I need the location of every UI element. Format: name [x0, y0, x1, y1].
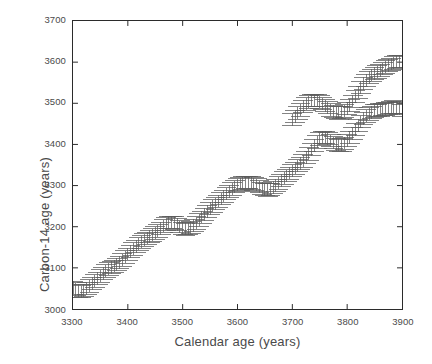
x-tick-3700: 3700 [273, 316, 313, 327]
x-tick-3500: 3500 [162, 316, 202, 327]
x-tick-3400: 3400 [107, 316, 147, 327]
x-tick-3300: 3300 [52, 316, 92, 327]
series-0-errorbars [73, 101, 402, 298]
y-axis-title: Carbon-14 age (years) [37, 125, 52, 325]
x-tick-3600: 3600 [218, 316, 258, 327]
x-tick-3800: 3800 [328, 316, 368, 327]
x-axis-title: Calendar age (years) [72, 334, 403, 349]
plot-area [72, 20, 403, 310]
y-tick-3500: 3500 [32, 96, 66, 107]
y-tick-3700: 3700 [32, 14, 66, 25]
y-tick-3600: 3600 [32, 55, 66, 66]
y-axis-title-wrapper: Carbon-14 age (years) [17, 65, 37, 265]
x-tick-3900: 3900 [383, 316, 423, 327]
figure-container: 30003100320033003400350036003700 3300340… [0, 0, 432, 364]
chart-canvas [73, 21, 402, 309]
